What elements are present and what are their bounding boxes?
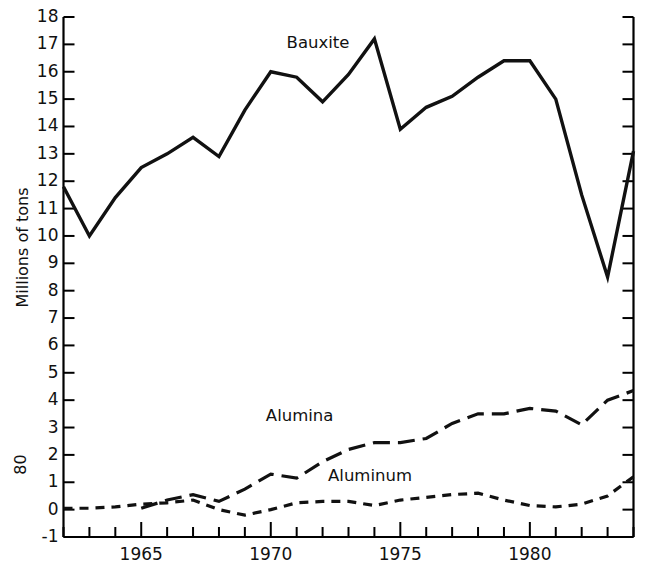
series-line-bauxite	[64, 39, 634, 277]
y-tick-label: 11	[37, 198, 59, 218]
data-series	[64, 39, 634, 515]
y-tick-label: 6	[48, 334, 59, 354]
y-tick-label: 18	[37, 6, 59, 26]
y-axis-title: Millions of tons	[13, 168, 32, 328]
y-tick-label: 7	[48, 307, 59, 327]
y-tick-label: 10	[37, 225, 59, 245]
y-tick-label: 2	[48, 444, 59, 464]
y-tick-label: 3	[48, 417, 59, 437]
y-tick-label: -1	[42, 526, 59, 546]
y-tick-label: 5	[48, 362, 59, 382]
y-tick-label: 17	[37, 33, 59, 53]
x-tick-label: 1975	[360, 544, 440, 564]
line-chart-canvas	[0, 0, 648, 565]
y-tick-label: 15	[37, 88, 59, 108]
x-tick-label: 1980	[490, 544, 570, 564]
y-tick-label: 8	[48, 280, 59, 300]
y-tick-label: 12	[37, 170, 59, 190]
y-tick-label: 14	[37, 115, 59, 135]
series-label-aluminum: Aluminum	[328, 466, 412, 485]
x-tick-label: 1965	[101, 544, 181, 564]
page-number: 80	[11, 454, 30, 474]
series-label-alumina: Alumina	[266, 406, 334, 425]
y-tick-label: 0	[48, 499, 59, 519]
y-tick-label: 9	[48, 252, 59, 272]
x-tick-label: 1970	[231, 544, 311, 564]
chart-figure: Millions of tons 80 18171615141312111098…	[0, 0, 648, 565]
series-line-alumina	[141, 391, 633, 509]
y-tick-label: 16	[37, 61, 59, 81]
y-tick-label: 1	[48, 471, 59, 491]
axes	[64, 17, 634, 537]
y-tick-label: 13	[37, 143, 59, 163]
series-label-bauxite: Bauxite	[287, 33, 350, 52]
y-tick-label: 4	[48, 389, 59, 409]
